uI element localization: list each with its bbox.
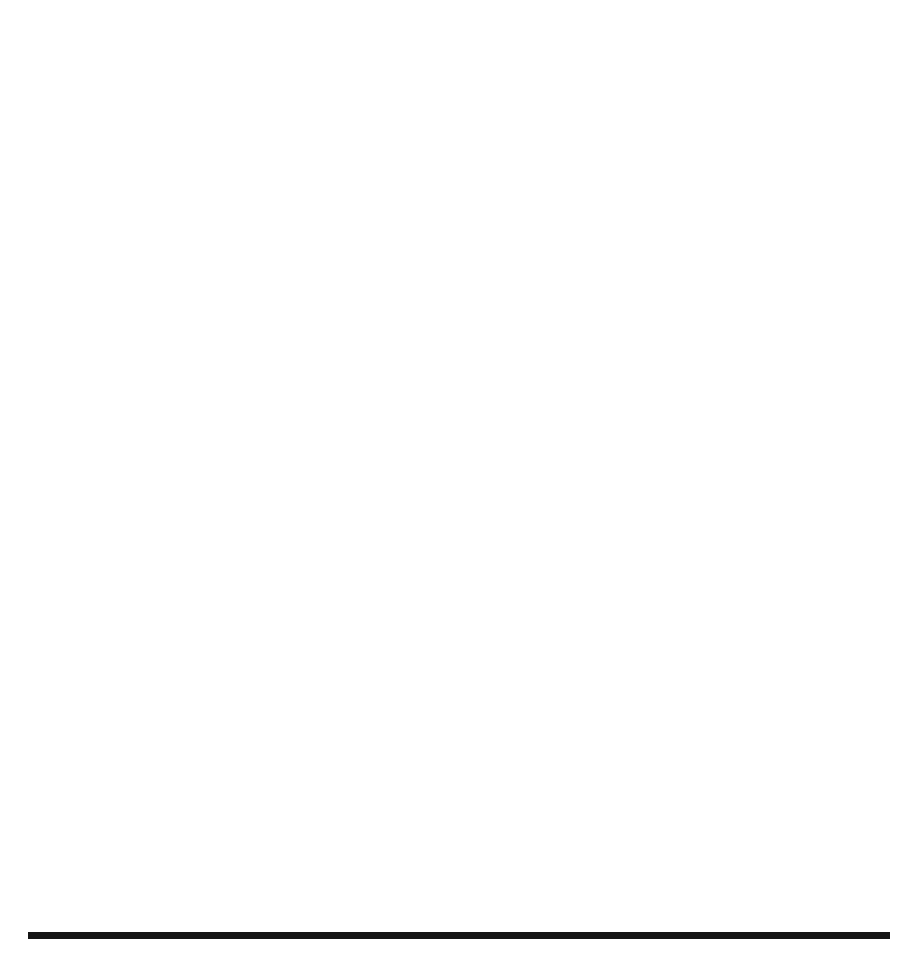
figure-root bbox=[0, 0, 922, 955]
footer-rule bbox=[28, 932, 890, 939]
chart-fitness-evaluations bbox=[0, 470, 922, 920]
chart-objective-delay bbox=[0, 0, 922, 470]
